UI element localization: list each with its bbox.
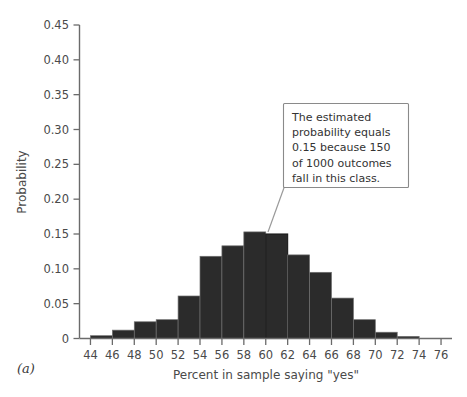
- bar: [178, 296, 200, 339]
- bar: [200, 256, 222, 338]
- callout-text-line: probability equals: [292, 126, 391, 139]
- x-tick-label: 62: [280, 348, 295, 362]
- y-tick-label: 0.15: [43, 227, 69, 241]
- panel-label: (a): [17, 361, 35, 376]
- x-tick-label: 68: [346, 348, 361, 362]
- y-tick-label: 0.05: [43, 297, 69, 311]
- x-tick-label: 48: [127, 348, 142, 362]
- y-tick-label: 0.40: [43, 53, 69, 67]
- bar: [134, 322, 156, 339]
- bar-highlighted: [266, 234, 288, 339]
- bar: [353, 320, 375, 339]
- y-tick-label: 0.45: [43, 18, 69, 32]
- x-tick-label: 70: [368, 348, 383, 362]
- x-tick-label: 72: [390, 348, 405, 362]
- y-tick-label: 0.25: [43, 157, 69, 171]
- x-tick-label: 44: [83, 348, 98, 362]
- y-tick-label: 0.30: [43, 123, 69, 137]
- x-axis-title: Percent in sample saying "yes": [173, 368, 359, 382]
- callout-text-line: The estimated: [291, 111, 371, 124]
- x-tick-label: 56: [215, 348, 230, 362]
- x-tick-label: 60: [258, 348, 273, 362]
- x-tick-label: 76: [434, 348, 449, 362]
- x-tick-label: 46: [105, 348, 120, 362]
- bar: [244, 232, 266, 339]
- bar: [310, 272, 332, 338]
- bar: [112, 330, 134, 338]
- y-tick-label: 0.35: [43, 88, 69, 102]
- x-tick-label: 52: [171, 348, 186, 362]
- histogram-figure: 00.050.100.150.200.250.300.350.400.45 Pr…: [0, 0, 467, 397]
- x-tick-label: 64: [302, 348, 317, 362]
- bar: [222, 246, 244, 339]
- bar: [156, 320, 178, 339]
- y-tick-label: 0.10: [43, 262, 69, 276]
- bar: [331, 298, 353, 338]
- x-tick-label: 74: [412, 348, 427, 362]
- bar: [288, 255, 310, 339]
- x-tick-label: 50: [149, 348, 164, 362]
- x-tick-label: 54: [193, 348, 208, 362]
- x-tick-label: 58: [237, 348, 252, 362]
- x-tick-label: 66: [324, 348, 339, 362]
- callout-text-line: fall in this class.: [292, 172, 380, 185]
- y-tick-label: 0.20: [43, 192, 69, 206]
- callout-text-line: of 1000 outcomes: [292, 157, 392, 170]
- callout-text-line: 0.15 because 150: [292, 141, 391, 154]
- y-axis-title: Probability: [15, 150, 29, 213]
- bar: [375, 332, 397, 338]
- y-tick-label: 0: [62, 332, 69, 346]
- histogram-svg: 00.050.100.150.200.250.300.350.400.45 Pr…: [0, 0, 467, 397]
